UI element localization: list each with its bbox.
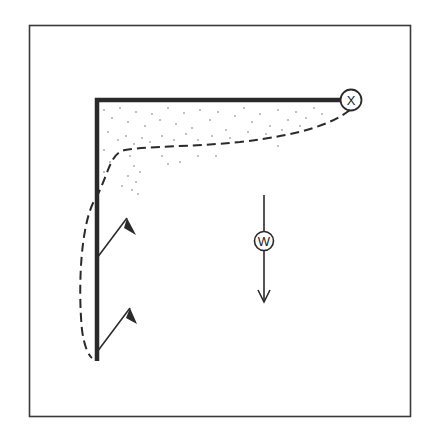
pivot-marker: X bbox=[341, 90, 362, 111]
weight-force-arrow: W bbox=[255, 195, 274, 302]
flag-arrow-upper bbox=[97, 218, 136, 258]
stipple-region bbox=[103, 107, 322, 194]
diagram-canvas: X W bbox=[0, 0, 431, 443]
pivot-label: X bbox=[347, 93, 356, 108]
flag-arrow-lower bbox=[97, 308, 137, 352]
weight-label: W bbox=[258, 234, 271, 249]
